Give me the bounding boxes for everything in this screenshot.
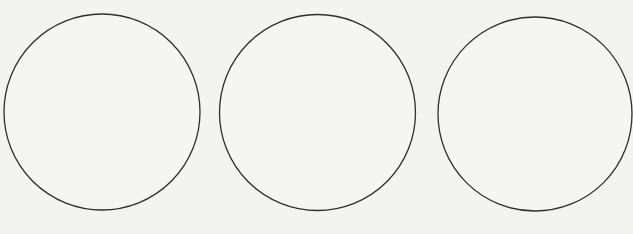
circles-figure (0, 0, 633, 234)
circle-middle (220, 15, 416, 211)
diagram-canvas (0, 0, 633, 234)
circle-right (438, 17, 632, 211)
circle-left (4, 14, 200, 210)
